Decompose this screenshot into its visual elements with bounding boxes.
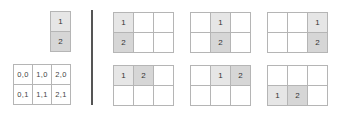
coord-cell: 0,0 [14, 65, 33, 85]
placed-cell-1: 1 [268, 86, 288, 106]
coord-cell: 2,0 [52, 65, 71, 85]
placed-cell-1: 1 [211, 66, 231, 86]
placed-cell-1: 1 [114, 13, 134, 33]
empty-cell [154, 66, 174, 86]
empty-cell [134, 33, 154, 53]
empty-cell [154, 13, 174, 33]
empty-cell [268, 13, 288, 33]
empty-cell [154, 33, 174, 53]
placed-cell-2: 2 [211, 33, 231, 53]
empty-cell [191, 33, 211, 53]
placement-grid-1: 1 2 [113, 12, 174, 53]
item-cell-1: 1 [51, 12, 71, 32]
coord-cell: 1,0 [33, 65, 52, 85]
empty-cell [308, 66, 328, 86]
item-cell-2: 2 [51, 32, 71, 52]
placement-grid-3: 1 2 [267, 12, 328, 53]
empty-cell [308, 86, 328, 106]
placed-cell-1: 1 [308, 13, 328, 33]
empty-cell [114, 86, 134, 106]
placed-cell-2: 2 [134, 66, 154, 86]
placement-grid-5: 1 2 [190, 65, 251, 106]
placed-cell-1: 1 [211, 13, 231, 33]
empty-cell [288, 13, 308, 33]
coordinate-grid: 0,0 1,0 2,0 0,1 1,1 2,1 [13, 64, 71, 105]
coord-cell: 0,1 [14, 85, 33, 105]
divider-line [91, 10, 93, 105]
empty-cell [231, 33, 251, 53]
empty-cell [288, 66, 308, 86]
empty-cell [191, 66, 211, 86]
empty-cell [191, 86, 211, 106]
empty-cell [231, 86, 251, 106]
coord-cell: 2,1 [52, 85, 71, 105]
placed-cell-2: 2 [288, 86, 308, 106]
placement-grid-2: 1 2 [190, 12, 251, 53]
empty-cell [154, 86, 174, 106]
empty-cell [231, 13, 251, 33]
empty-cell [134, 86, 154, 106]
placement-grid-4: 1 2 [113, 65, 174, 106]
placed-cell-2: 2 [231, 66, 251, 86]
empty-cell [268, 66, 288, 86]
empty-cell [191, 13, 211, 33]
empty-cell [134, 13, 154, 33]
empty-cell [288, 33, 308, 53]
item-piece: 1 2 [50, 11, 71, 52]
placed-cell-1: 1 [114, 66, 134, 86]
placed-cell-2: 2 [114, 33, 134, 53]
empty-cell [211, 86, 231, 106]
empty-cell [268, 33, 288, 53]
placed-cell-2: 2 [308, 33, 328, 53]
coord-cell: 1,1 [33, 85, 52, 105]
placement-grid-6: 1 2 [267, 65, 328, 106]
